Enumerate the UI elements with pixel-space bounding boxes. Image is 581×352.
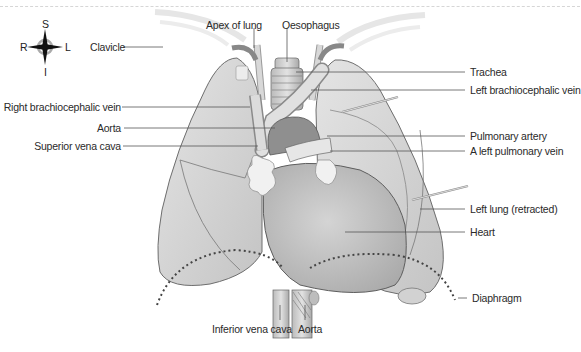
label-right-brachiocephalic-vein: Right brachiocephalic vein — [4, 101, 121, 113]
label-aorta-upper: Aorta — [97, 122, 121, 134]
label-superior-vena-cava: Superior vena cava — [34, 140, 121, 152]
label-trachea: Trachea — [470, 66, 507, 78]
clavicle-shapes — [155, 12, 425, 50]
label-left-brachiocephalic-vein: Left brachiocephalic vein — [470, 84, 581, 96]
label-oesophagus: Oesophagus — [282, 19, 340, 31]
compass-left-label: L — [65, 42, 71, 53]
compass-superior-label: S — [42, 19, 49, 30]
label-left-pulmonary-vein: A left pulmonary vein — [470, 145, 563, 157]
compass-icon — [27, 29, 63, 65]
label-aorta-lower: Aorta — [298, 323, 322, 335]
label-pulmonary-artery: Pulmonary artery — [470, 130, 547, 142]
compass-inferior-label: I — [44, 67, 47, 78]
compass-right-label: R — [20, 42, 28, 53]
label-inferior-vena-cava: Inferior vena cava — [212, 323, 292, 335]
right-lung — [158, 58, 262, 286]
label-diaphragm: Diaphragm — [472, 292, 522, 304]
label-clavicle: Clavicle — [90, 41, 125, 53]
label-left-lung-retracted: Left lung (retracted) — [470, 203, 557, 215]
label-heart: Heart — [470, 226, 495, 238]
label-apex-of-lung: Apex of lung — [206, 19, 262, 31]
